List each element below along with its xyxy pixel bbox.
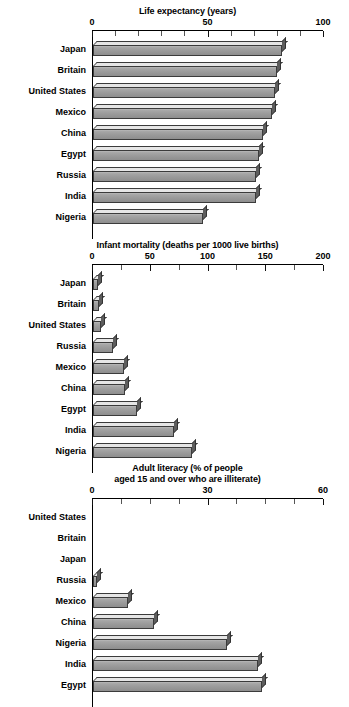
bar xyxy=(93,87,275,98)
category-label: India xyxy=(65,425,86,435)
bar-front-face xyxy=(93,363,124,374)
category-label: Nigeria xyxy=(55,638,86,648)
bar-front-face xyxy=(93,45,282,56)
category-label: Britain xyxy=(57,65,86,75)
bar-row: Britain xyxy=(93,529,323,550)
bar-row: United States xyxy=(93,82,323,103)
category-label: India xyxy=(65,191,86,201)
x-tick-label: 100 xyxy=(315,17,330,27)
bar-end-cap xyxy=(101,313,105,328)
bar xyxy=(93,192,256,203)
bar-front-face xyxy=(93,384,125,395)
bar xyxy=(93,384,125,395)
bar xyxy=(93,45,282,56)
category-label: Japan xyxy=(60,278,86,288)
bar xyxy=(93,405,137,416)
bar-row: Russia xyxy=(93,571,323,592)
bar-row: Egypt xyxy=(93,145,323,166)
bar-end-cap xyxy=(124,355,128,370)
chart-title-line: Infant mortality (deaths per 1000 live b… xyxy=(26,240,349,251)
chart-panel-infant-mortality: Infant mortality (deaths per 1000 live b… xyxy=(0,240,349,473)
bar-row: Nigeria xyxy=(93,208,323,229)
bar xyxy=(93,597,128,608)
axis-tick xyxy=(323,499,324,505)
axis-tick xyxy=(236,265,237,270)
bar-front-face xyxy=(93,213,203,224)
bar xyxy=(93,321,101,332)
bar-group-infant-mortality: JapanBritainUnited StatesRussiaMexicoChi… xyxy=(92,271,323,473)
category-label: Mexico xyxy=(55,107,86,117)
bar-row: Egypt xyxy=(93,676,323,697)
bar-end-cap xyxy=(128,589,132,604)
bar-end-cap xyxy=(282,37,286,52)
bar-row: China xyxy=(93,613,323,634)
bar-front-face xyxy=(93,639,227,650)
x-axis-adult-literacy xyxy=(92,498,323,505)
bar-end-cap xyxy=(258,652,262,667)
x-tick-label: 50 xyxy=(202,17,212,27)
bar xyxy=(93,447,192,458)
bar-row: Britain xyxy=(93,295,323,316)
axis-tick xyxy=(294,265,295,270)
axis-tick xyxy=(323,31,324,37)
category-label: Russia xyxy=(56,341,86,351)
category-label: Egypt xyxy=(61,404,86,414)
bar-row: Mexico xyxy=(93,103,323,124)
bar-end-cap xyxy=(203,205,207,220)
axis-tick xyxy=(121,265,122,270)
chart-title-infant-mortality: Infant mortality (deaths per 1000 live b… xyxy=(0,240,349,251)
bar-row: Mexico xyxy=(93,592,323,613)
bar-end-cap xyxy=(256,184,260,199)
bar-front-face xyxy=(93,426,174,437)
category-label: Britain xyxy=(57,299,86,309)
bar-end-cap xyxy=(174,418,178,433)
axis-tick xyxy=(236,499,237,504)
bar-row: United States xyxy=(93,508,323,529)
axis-tick xyxy=(150,499,151,504)
category-label: Nigeria xyxy=(55,446,86,456)
x-tick-label: 30 xyxy=(202,485,212,495)
bar xyxy=(93,171,256,182)
bar-end-cap xyxy=(154,610,158,625)
bar-front-face xyxy=(93,660,258,671)
bar-row: Egypt xyxy=(93,400,323,421)
bar-front-face xyxy=(93,342,113,353)
plot-area-infant-mortality: 0 50 100 150 200 JapanBritainUnited Stat… xyxy=(92,251,323,473)
category-label: United States xyxy=(28,512,86,522)
axis-tick xyxy=(294,499,295,504)
bar-row: China xyxy=(93,124,323,145)
bar-front-face xyxy=(93,597,128,608)
category-label: Egypt xyxy=(61,149,86,159)
x-tick-label: 0 xyxy=(89,251,94,261)
bar-end-cap xyxy=(125,376,129,391)
x-axis-life-expectancy xyxy=(92,30,323,37)
bar-end-cap xyxy=(272,100,276,115)
plot-area-adult-literacy: 0 30 60 United StatesBritainJapanRussiaM… xyxy=(92,485,323,707)
bar-end-cap xyxy=(262,673,266,688)
bar-row: Britain xyxy=(93,61,323,82)
category-label: Egypt xyxy=(61,680,86,690)
bar-row: Russia xyxy=(93,166,323,187)
x-axis-infant-mortality xyxy=(92,264,323,271)
axis-tick xyxy=(254,31,255,36)
x-tick-label: 200 xyxy=(315,251,330,261)
category-label: Britain xyxy=(57,533,86,543)
bar-row: Nigeria xyxy=(93,442,323,463)
x-tick-label: 0 xyxy=(89,17,94,27)
bar-group-life-expectancy: JapanBritainUnited StatesMexicoChinaEgyp… xyxy=(92,37,323,239)
bar-end-cap xyxy=(263,121,267,136)
x-tick-label: 100 xyxy=(200,251,215,261)
bar-row: Japan xyxy=(93,274,323,295)
bar xyxy=(93,279,98,290)
category-label: Japan xyxy=(60,554,86,564)
bar-row: India xyxy=(93,421,323,442)
bar-row: Japan xyxy=(93,40,323,61)
chart-title-line: Life expectancy (years) xyxy=(26,6,349,17)
chart-title-life-expectancy: Life expectancy (years) xyxy=(0,6,349,17)
axis-tick xyxy=(115,31,116,36)
axis-tick xyxy=(121,499,122,504)
bar xyxy=(93,681,262,692)
bar-row: United States xyxy=(93,316,323,337)
bar-front-face xyxy=(93,108,272,119)
